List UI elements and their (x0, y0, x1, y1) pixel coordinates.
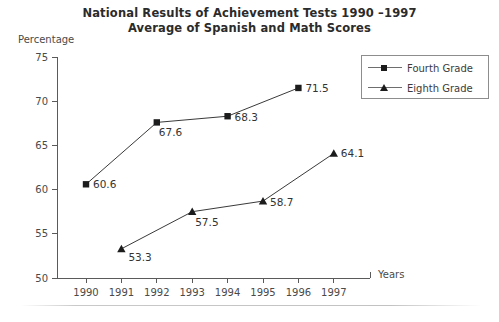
x-tick-label: 1991 (109, 287, 134, 298)
chart-container: National Results of Achievement Tests 19… (0, 0, 499, 322)
legend-label-eighth-grade: Eighth Grade (407, 83, 473, 94)
data-point-label: 71.5 (305, 82, 328, 94)
x-tick-label: 1993 (179, 287, 204, 298)
y-tick-label: 60 (35, 184, 48, 195)
square-marker-icon (83, 181, 89, 187)
x-tick-label: 1996 (286, 287, 311, 298)
y-tick-label: 70 (35, 96, 48, 107)
legend-label-fourth-grade: Fourth Grade (407, 63, 473, 74)
data-point-label: 64.1 (341, 147, 364, 159)
legend-item-eighth-grade: Eighth Grade (368, 80, 473, 96)
triangle-marker-icon (259, 197, 267, 205)
data-point-label: 67.6 (159, 126, 183, 138)
data-point-label: 60.6 (93, 178, 117, 190)
x-tick-label: 1995 (250, 287, 275, 298)
x-tick-label: 1997 (321, 287, 346, 298)
square-marker-icon (295, 85, 301, 91)
y-tick-label: 75 (35, 52, 48, 63)
triangle-marker-icon (368, 82, 402, 94)
square-marker-icon (368, 62, 402, 74)
data-labels: 60.667.668.371.553.357.558.764.1 (93, 82, 364, 263)
plot-area: 505560657075 199019911992199319941995199… (0, 0, 499, 322)
square-marker-icon (154, 119, 160, 125)
x-tick-label: 1994 (215, 287, 240, 298)
y-axis: 505560657075 (35, 52, 57, 284)
legend: Fourth Grade Eighth Grade (361, 55, 489, 99)
x-axis: 19901991199219931994199519961997 (57, 272, 370, 298)
data-point-label: 58.7 (270, 196, 293, 208)
data-point-label: 57.5 (195, 216, 218, 228)
data-point-label: 53.3 (128, 251, 151, 263)
triangle-marker-icon (117, 245, 125, 253)
y-tick-label: 65 (35, 140, 48, 151)
x-tick-label: 1990 (73, 287, 98, 298)
y-tick-label: 50 (35, 273, 48, 284)
bottom-divider (20, 305, 482, 306)
square-marker-icon (224, 113, 230, 119)
data-point-label: 68.3 (235, 111, 258, 123)
legend-item-fourth-grade: Fourth Grade (368, 60, 473, 76)
triangle-marker-icon (330, 149, 338, 157)
x-tick-label: 1992 (144, 287, 169, 298)
y-tick-label: 55 (35, 228, 48, 239)
